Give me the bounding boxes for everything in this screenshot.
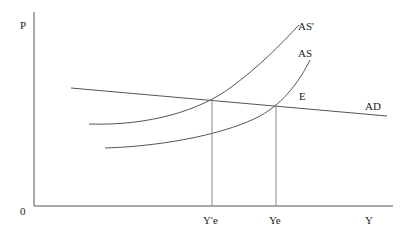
p-axis-label: P [20,19,26,31]
ad-label: AD [365,100,381,112]
ye-prime-label: Y'e [203,214,218,226]
as-prime-curve [89,25,299,124]
equilibrium-label: E [299,90,306,102]
y-axis-label: Y [365,214,373,226]
as-label: AS [298,47,312,59]
ad-curve [71,88,387,116]
as-prime-label: AS' [298,20,314,32]
ad-as-diagram: P 0 Y AS' AS E AD Y'e Ye [0,0,411,240]
ye-label: Ye [269,214,281,226]
origin-label: 0 [20,205,26,217]
as-curve [105,60,310,148]
